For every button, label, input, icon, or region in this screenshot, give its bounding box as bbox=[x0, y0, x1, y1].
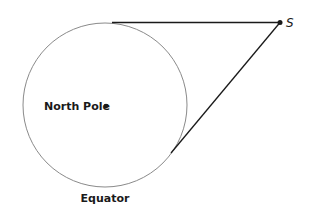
diagram-canvas: S North Pole Equator bbox=[0, 0, 312, 216]
equator-label: Equator bbox=[81, 192, 130, 205]
north-pole-label: North Pole bbox=[44, 100, 110, 113]
point-s-dot bbox=[278, 20, 283, 25]
point-s-label: S bbox=[286, 16, 294, 30]
tangent-line-bottom bbox=[171, 23, 280, 154]
